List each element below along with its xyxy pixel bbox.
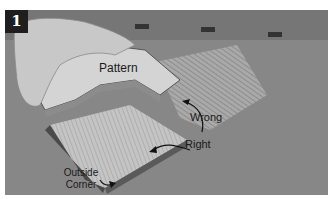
pattern-label: Pattern (99, 62, 138, 74)
background-object (135, 24, 149, 29)
outside-corner-label: Outside Corner (60, 167, 102, 191)
photo-illustration (5, 10, 328, 195)
outside-corner-line-1: Outside (60, 167, 102, 179)
background-object (268, 32, 282, 37)
wrong-label: Wrong (190, 111, 222, 123)
background-object (201, 27, 215, 32)
outside-corner-line-2: Corner (60, 179, 102, 191)
photo (5, 10, 328, 195)
step-number-badge: 1 (5, 10, 28, 33)
right-label: Right (185, 138, 211, 150)
